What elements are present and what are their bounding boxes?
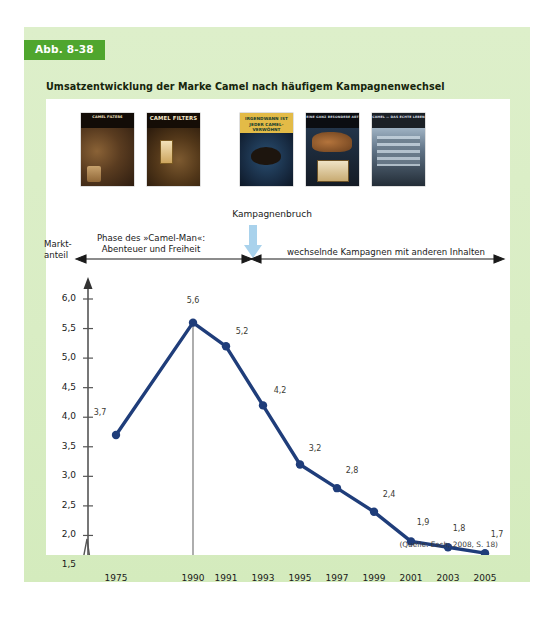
data-point-marker: [370, 508, 378, 516]
data-point-label: 1,9: [411, 518, 435, 527]
data-point-label: 1,8: [447, 524, 471, 533]
figure-caption: Umsatzentwicklung der Marke Camel nach h…: [46, 81, 445, 92]
data-point-label: 4,2: [268, 386, 292, 395]
figure-badge: Abb. 8-38: [24, 40, 105, 60]
y-tick-label: 6,0: [50, 293, 76, 303]
data-point-marker: [259, 401, 267, 409]
data-point-marker: [333, 484, 341, 492]
y-tick-label: 2,0: [50, 529, 76, 539]
chart-card: CAMEL FILTERS CAMEL FILTERS IRGENDWANN I…: [46, 99, 510, 555]
data-point-label: 5,2: [230, 327, 254, 336]
data-point-label: 2,8: [340, 466, 364, 475]
x-tick-label: 2001: [391, 573, 431, 583]
data-point-label: 3,2: [303, 444, 327, 453]
y-tick-label: 3,5: [50, 441, 76, 451]
x-tick-label: 1999: [354, 573, 394, 583]
x-tick-label: 2005: [465, 573, 505, 583]
y-tick-label: 5,5: [50, 323, 76, 333]
figure-panel: Abb. 8-38 Umsatzentwicklung der Marke Ca…: [24, 27, 530, 582]
y-tick-label: 4,5: [50, 382, 76, 392]
x-tick-label: 1991: [206, 573, 246, 583]
data-point-marker: [222, 342, 230, 350]
y-tick-label: 1,5: [50, 559, 76, 569]
data-point-label: 1,7: [485, 530, 509, 539]
data-point-label: 5,6: [181, 296, 205, 305]
data-point-label: 3,7: [88, 408, 112, 417]
x-tick-label: 1975: [96, 573, 136, 583]
y-tick-label: 4,0: [50, 411, 76, 421]
data-point-label: 2,4: [377, 490, 401, 499]
data-point-marker: [112, 431, 120, 439]
source-note: (Quelle: Esch, 2008, S. 18): [399, 540, 498, 549]
y-tick-label: 2,5: [50, 500, 76, 510]
x-tick-label: 1997: [317, 573, 357, 583]
data-point-marker: [189, 318, 197, 326]
x-tick-label: 1995: [280, 573, 320, 583]
y-tick-label: 5,0: [50, 352, 76, 362]
data-point-marker: [296, 460, 304, 468]
y-tick-label: 3,0: [50, 470, 76, 480]
x-tick-label: 2003: [428, 573, 468, 583]
x-tick-label: 1993: [243, 573, 283, 583]
line-chart-plot: [46, 99, 510, 555]
data-point-marker: [481, 549, 489, 555]
